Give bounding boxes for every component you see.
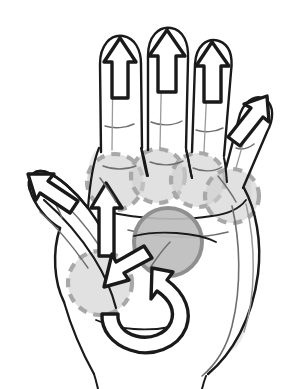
carpal-centre-highlight xyxy=(134,208,202,276)
hand-diagram-svg xyxy=(0,0,292,389)
diagram-canvas xyxy=(0,0,292,389)
